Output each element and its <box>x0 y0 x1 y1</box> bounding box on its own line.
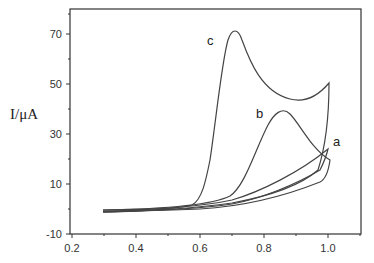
curve-label-b: b <box>256 106 263 121</box>
cyclic-voltammogram-chart: 70 50 30 10 -10 0.2 0.4 0.6 0.8 1.0 I/μA… <box>0 0 374 263</box>
y-tick-minus10: -10 <box>46 228 62 240</box>
y-tick-70: 70 <box>50 28 62 40</box>
x-tick-0.2: 0.2 <box>64 242 79 254</box>
y-axis-label: I/μA <box>10 106 38 122</box>
x-tick-0.8: 0.8 <box>256 242 271 254</box>
curve-a <box>103 149 328 212</box>
curve-b <box>103 111 330 212</box>
x-tick-1.0: 1.0 <box>320 242 335 254</box>
y-tick-50: 50 <box>50 78 62 90</box>
x-tick-0.6: 0.6 <box>192 242 207 254</box>
y-tick-30: 30 <box>50 128 62 140</box>
y-tick-10: 10 <box>50 178 62 190</box>
x-tick-0.4: 0.4 <box>128 242 143 254</box>
x-axis-ticks <box>72 234 360 238</box>
curve-label-c: c <box>207 33 214 48</box>
curve-c <box>103 31 329 212</box>
curve-label-a: a <box>333 134 341 149</box>
